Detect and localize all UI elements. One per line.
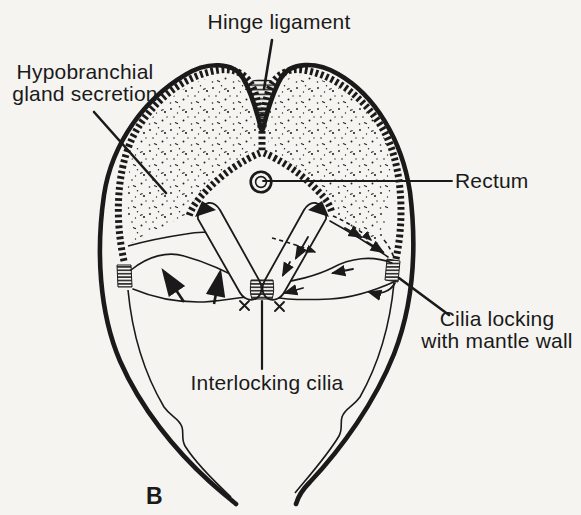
label-hinge-ligament: Hinge ligament [201,11,357,33]
flow-arrows-inhalant [164,272,220,304]
label-cilia-locking: Cilia locking with mantle wall [412,308,581,352]
wall-patch-left [117,265,132,287]
panel-label-b: B [146,483,163,510]
figure-diagram: Hinge ligament Hypobranchial gland secre… [0,0,581,515]
label-hypobranchial-gland-secretion: Hypobranchial gland secretion [2,61,168,105]
label-rectum: Rectum [455,170,529,192]
label-hypobranchial-line2: gland secretion [2,83,168,105]
rectum-icon [251,172,272,193]
label-cilia-locking-line1: Cilia locking [412,308,581,330]
wall-patch-right [385,259,400,282]
interlocking-cilia-junction [250,280,273,299]
label-cilia-locking-line2: with mantle wall [412,330,581,352]
label-interlocking-cilia: Interlocking cilia [181,372,353,394]
label-hypobranchial-line1: Hypobranchial [2,61,168,83]
